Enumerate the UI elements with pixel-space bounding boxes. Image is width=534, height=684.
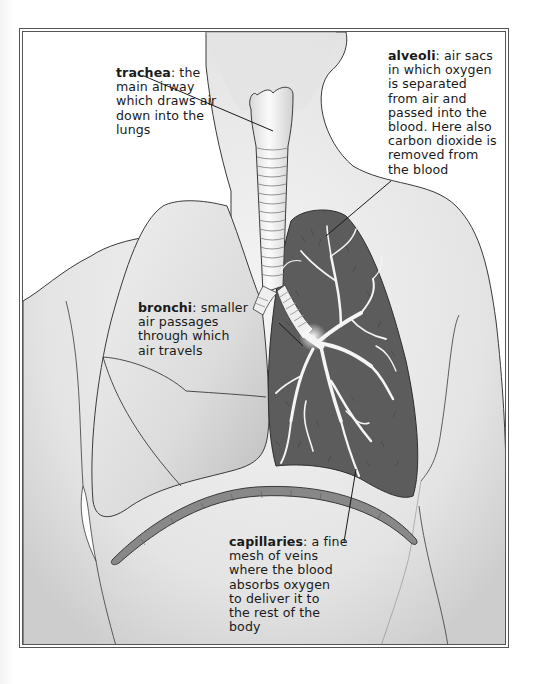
alveoli-label: alveoli: air sacs in which oxygen is sep…: [388, 49, 497, 177]
capillaries-term: capillaries: [229, 534, 303, 549]
bronchi-label: bronchi: smaller air passages through wh…: [138, 301, 248, 358]
capillaries-label: capillaries: a fine mesh of veins where …: [229, 535, 348, 634]
trachea-label: trachea: the main airway which draws air…: [116, 66, 216, 137]
alveoli-term: alveoli: [388, 48, 436, 63]
bronchi-term: bronchi: [138, 300, 192, 315]
trachea-term: trachea: [116, 65, 171, 80]
